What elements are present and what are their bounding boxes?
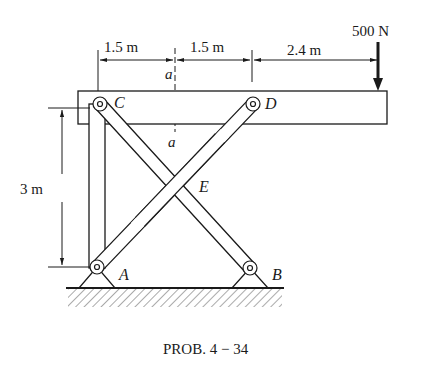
section-label-bottom: a <box>168 134 176 150</box>
point-label-C: C <box>114 94 125 111</box>
point-label-A: A <box>118 266 129 283</box>
dim-label-2: 1.5 m <box>190 39 225 55</box>
load-arrow-icon <box>373 42 383 91</box>
figure-caption: PROB. 4 − 34 <box>163 341 249 357</box>
point-label-D: D <box>264 95 277 112</box>
left-post <box>89 104 105 268</box>
dim-label-1: 1.5 m <box>104 39 139 55</box>
scissor-lift-diagram: 1.5 m 1.5 m 2.4 m 500 N 3 m a a C D E A … <box>0 0 427 380</box>
dim-label-3: 2.4 m <box>287 42 322 58</box>
vertical-dimension <box>48 108 90 267</box>
height-label: 3 m <box>20 181 43 197</box>
section-label-top: a <box>165 66 173 82</box>
point-label-B: B <box>272 266 282 283</box>
point-label-E: E <box>198 178 209 195</box>
ground <box>66 288 284 307</box>
load-label: 500 N <box>352 23 389 39</box>
